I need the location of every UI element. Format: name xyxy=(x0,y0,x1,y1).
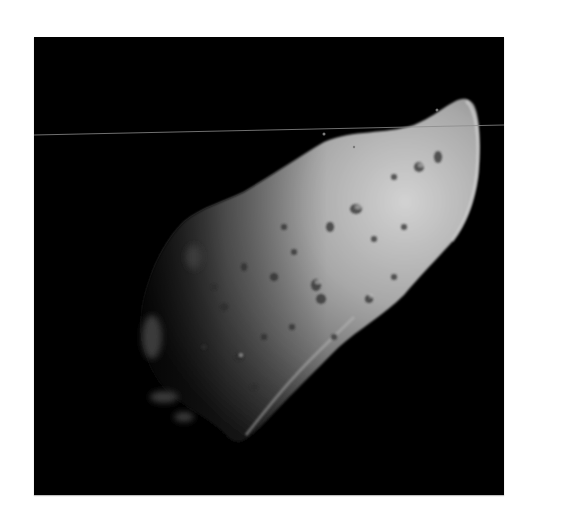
asteroid-image xyxy=(34,37,504,495)
asteroid-photo xyxy=(34,37,504,495)
